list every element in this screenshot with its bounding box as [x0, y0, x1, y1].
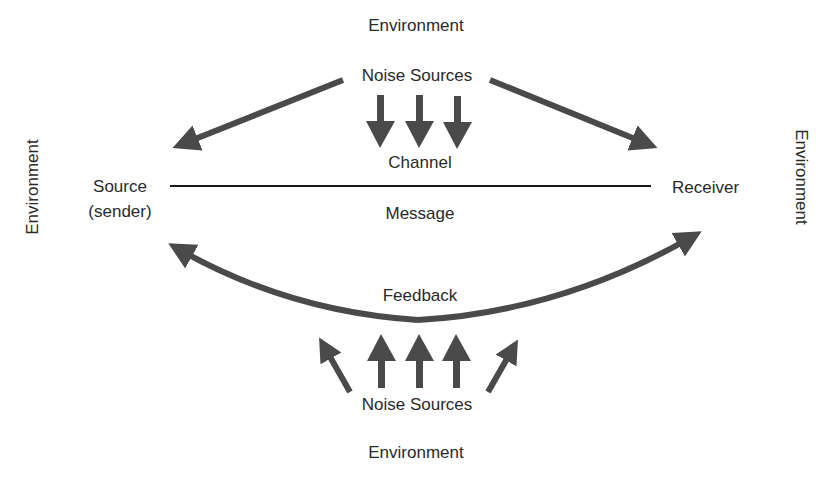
- up-arrow-stem-1: [378, 358, 385, 388]
- receiver-label: Receiver: [672, 178, 739, 198]
- up-arrow-stem-3: [453, 358, 460, 388]
- sender-label: (sender): [75, 202, 165, 222]
- environment-right-label: Environment: [791, 122, 811, 232]
- noise-to-receiver-arrow: [490, 80, 645, 143]
- down-arrow-stem-1: [377, 95, 384, 125]
- down-arrow-stem-3: [454, 96, 461, 126]
- down-arrow-head-1: [366, 121, 395, 148]
- down-arrow-head-2: [405, 121, 434, 148]
- up-arrow-stem-2: [416, 358, 423, 388]
- noise-to-feedback-arrows: [325, 334, 512, 392]
- up-arrow-head-2: [405, 334, 434, 361]
- noise-to-source-arrow: [185, 80, 343, 143]
- up-arrow-diag-right: [488, 350, 512, 392]
- down-arrow-head-3: [443, 122, 472, 149]
- environment-top-label: Environment: [320, 16, 512, 36]
- up-arrow-diag-left: [325, 348, 350, 392]
- noise-sources-bottom-label: Noise Sources: [340, 395, 494, 415]
- environment-left-label: Environment: [23, 132, 43, 242]
- feedback-curve-right: [418, 238, 690, 320]
- feedback-label: Feedback: [360, 286, 480, 306]
- down-arrow-stem-2: [416, 95, 423, 125]
- noise-sources-top-label: Noise Sources: [340, 66, 494, 86]
- feedback-curve-left: [180, 250, 418, 320]
- up-arrow-head-3: [442, 334, 471, 361]
- up-arrow-head-1: [367, 334, 396, 361]
- channel-label: Channel: [360, 153, 480, 173]
- noise-to-channel-arrows: [366, 95, 472, 149]
- source-label: Source: [80, 177, 160, 197]
- message-label: Message: [360, 204, 480, 224]
- environment-bottom-label: Environment: [320, 443, 512, 463]
